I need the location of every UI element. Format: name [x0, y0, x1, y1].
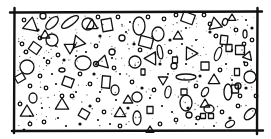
aggregate-stipple: [148, 89, 149, 90]
aggregate-stipple: [128, 65, 129, 66]
aggregate-ellipse: [221, 18, 228, 26]
aggregate-ellipse: [133, 17, 145, 35]
aggregate-stipple: [196, 23, 197, 24]
aggregate-dot: [62, 58, 65, 61]
aggregate-stipple: [197, 39, 198, 40]
aggregate-stipple: [227, 122, 228, 123]
aggregate-dot: [243, 61, 245, 63]
aggregate-dot: [55, 45, 57, 47]
aggregate-stipple: [193, 75, 194, 76]
aggregate-quadrilateral: [62, 76, 74, 88]
aggregate-ellipse: [156, 45, 163, 60]
aggregate-stipple: [177, 120, 178, 121]
aggregate-stipple: [40, 82, 41, 83]
aggregate-triangle: [69, 33, 85, 48]
aggregate-stipple: [70, 59, 71, 60]
aggregate-stipple: [245, 84, 246, 85]
aggregate-stipple: [47, 97, 48, 98]
aggregate-stipple: [44, 52, 45, 53]
aggregate-stipple: [86, 85, 87, 86]
aggregate-pebble: [56, 53, 60, 57]
aggregate-stipple: [195, 119, 196, 120]
aggregate-stipple: [251, 86, 252, 87]
aggregate-stipple: [84, 15, 85, 16]
aggregate-ellipse: [60, 13, 80, 30]
aggregate-stipple: [18, 41, 20, 43]
aggregate-dot: [250, 26, 253, 29]
aggregate-stipple: [43, 69, 44, 70]
aggregate-stipple: [198, 105, 199, 106]
aggregate-stipple: [121, 58, 122, 59]
aggregate-pebble: [208, 22, 212, 26]
aggregate-triangle: [208, 74, 219, 84]
aggregate-stipple: [21, 104, 22, 105]
aggregate-stipple: [172, 31, 173, 32]
aggregate-stipple: [128, 121, 129, 122]
aggregate-stipple: [46, 116, 47, 117]
aggregate-stipple: [189, 27, 190, 28]
aggregate-dot: [225, 63, 227, 65]
aggregate-stipple: [234, 26, 235, 27]
aggregate-stipple: [176, 55, 177, 56]
aggregate-stipple: [213, 36, 214, 37]
aggregate-pebble: [102, 110, 106, 114]
aggregate-stipple: [68, 59, 69, 60]
aggregate-stipple: [126, 73, 128, 75]
aggregate-dot: [119, 73, 121, 75]
aggregate-pebble: [96, 15, 100, 19]
aggregate-quadrilateral: [235, 69, 240, 76]
aggregate-stipple: [237, 19, 238, 20]
aggregate-dot: [132, 42, 135, 45]
aggregate-stipple: [192, 67, 193, 68]
aggregate-stipple: [133, 23, 134, 24]
aggregate-circle: [109, 49, 115, 55]
aggregate-circle: [186, 112, 192, 118]
aggregate-ellipse: [224, 119, 236, 129]
aggregate-pebble: [238, 94, 242, 98]
aggregate-stipple: [46, 59, 47, 60]
aggregate-stipple: [73, 99, 74, 100]
aggregate-stipple: [59, 23, 60, 24]
aggregate-stipple: [75, 21, 76, 22]
aggregate-dot: [126, 106, 129, 109]
aggregate-stipple: [101, 61, 102, 62]
aggregate-stipple: [31, 44, 32, 45]
aggregate-pebble: [18, 102, 22, 106]
aggregate-stipple: [183, 101, 184, 102]
aggregate-ellipse: [75, 56, 91, 70]
aggregate-quadrilateral: [141, 69, 145, 75]
aggregate-quadrilateral: [101, 76, 110, 89]
aggregate-stipple: [196, 26, 197, 27]
aggregate-stipple: [115, 71, 116, 72]
aggregate-pebble: [162, 17, 166, 21]
aggregate-stipple: [187, 87, 188, 88]
aggregate-quadrilateral: [181, 11, 196, 25]
aggregate-dot: [57, 117, 59, 119]
aggregate-ellipse: [180, 95, 192, 111]
aggregate-stipple: [180, 30, 181, 31]
aggregate-stipple: [147, 53, 148, 54]
aggregate-stipple: [40, 71, 41, 72]
aggregate-quadrilateral: [28, 41, 41, 54]
aggregate-dot: [231, 79, 233, 81]
aggregate-stipple: [99, 125, 100, 126]
aggregate-stipple: [179, 95, 180, 96]
aggregate-quadrilateral: [78, 108, 90, 119]
aggregate-stipple: [189, 51, 190, 52]
aggregate-pebble: [130, 80, 134, 84]
aggregate-stipple: [206, 54, 207, 55]
aggregate-dot: [111, 57, 113, 59]
aggregate-stipple: [203, 47, 204, 48]
aggregate-dot: [75, 91, 77, 93]
aggregate-stipple: [49, 17, 50, 18]
aggregate-dot: [88, 104, 91, 107]
aggregate-stipple: [172, 73, 173, 74]
aggregate-dot: [29, 115, 31, 117]
aggregate-dot: [231, 49, 233, 51]
aggregate-stipple: [132, 23, 133, 24]
aggregate-stipple: [138, 117, 140, 119]
aggregate-pebble: [70, 94, 74, 98]
aggregate-dot: [228, 116, 231, 119]
aggregate-stipple: [50, 49, 51, 50]
aggregate-stipple: [191, 45, 193, 47]
